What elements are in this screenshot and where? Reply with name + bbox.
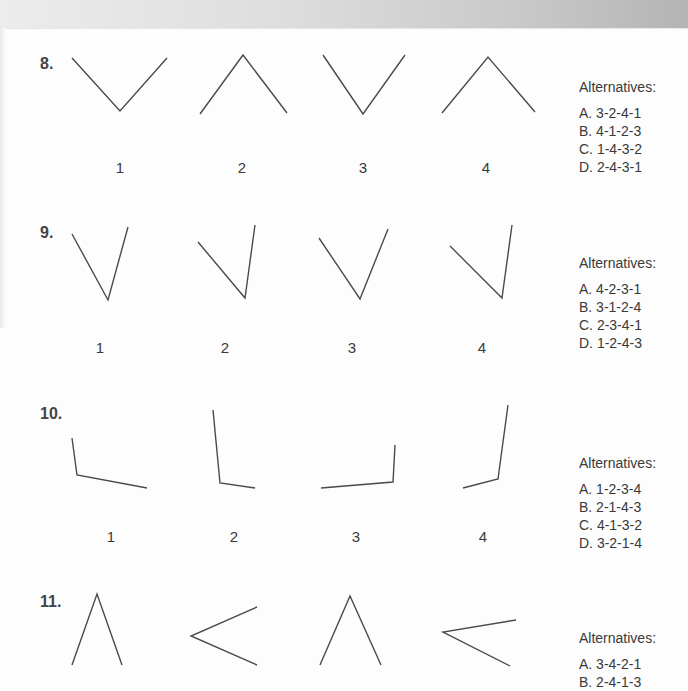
- q11-figure-2: [191, 607, 257, 665]
- question-number: 9.: [40, 224, 53, 242]
- alternatives-block: Alternatives: A. 3-2-4-1 B. 4-1-2-3 C. 1…: [579, 78, 656, 176]
- figure-label: 4: [472, 339, 492, 356]
- alternatives-title: Alternatives:: [579, 254, 656, 272]
- alternative-option: C. 4-1-3-2: [579, 516, 656, 534]
- q9-figure-1: [72, 227, 128, 300]
- question-number: 10.: [40, 405, 62, 423]
- figure-label: 3: [346, 528, 366, 545]
- figure-label: 2: [224, 528, 244, 545]
- alternatives-title: Alternatives:: [579, 78, 656, 96]
- alternative-option: A. 3-4-2-1: [579, 655, 656, 673]
- alternative-option: B. 4-1-2-3: [579, 122, 656, 140]
- figure-label: 1: [90, 339, 110, 356]
- figure-label: 4: [473, 528, 493, 545]
- alternative-option: A. 1-2-3-4: [579, 480, 656, 498]
- q9-figure-3: [319, 229, 388, 299]
- question-number: 8.: [40, 55, 53, 73]
- q8-figure-3: [323, 55, 405, 114]
- alternative-option: D. 2-4-3-1: [579, 158, 656, 176]
- figure-label: 1: [101, 528, 121, 545]
- question-number: 11.: [40, 593, 61, 611]
- alternative-option: B. 2-1-4-3: [579, 498, 656, 516]
- q10-figure-1: [72, 438, 147, 488]
- alternative-option: D. 1-2-4-3: [579, 334, 656, 352]
- alternatives-block: Alternatives: A. 1-2-3-4 B. 2-1-4-3 C. 4…: [579, 454, 656, 552]
- alternative-option: B. 2-4-1-3: [579, 673, 656, 691]
- q8-figure-1: [72, 58, 167, 111]
- figure-label: 2: [215, 339, 235, 356]
- alternative-option: B. 3-1-2-4: [579, 298, 656, 316]
- q11-figure-4: [443, 620, 516, 666]
- alternatives-block: Alternatives: A. 4-2-3-1 B. 3-1-2-4 C. 2…: [579, 254, 656, 352]
- alternatives-title: Alternatives:: [579, 454, 656, 472]
- q10-figure-4: [463, 405, 508, 488]
- figure-label: 1: [110, 159, 130, 176]
- q8-figure-2: [200, 55, 287, 114]
- q10-figure-3: [321, 445, 395, 488]
- alternative-option: D. 3-2-1-4: [579, 534, 656, 552]
- alternatives-title: Alternatives:: [579, 629, 656, 647]
- q9-figure-4: [450, 225, 512, 298]
- q8-figure-4: [442, 57, 535, 113]
- figure-label: 4: [476, 159, 496, 176]
- alternative-option: A. 4-2-3-1: [579, 280, 656, 298]
- figure-label: 2: [232, 159, 252, 176]
- alternative-option: C. 2-3-4-1: [579, 316, 656, 334]
- q10-figure-2: [213, 410, 255, 488]
- alternatives-block: Alternatives: A. 3-4-2-1 B. 2-4-1-3: [579, 629, 656, 691]
- q11-figure-1: [72, 594, 122, 665]
- figure-label: 3: [353, 159, 373, 176]
- q11-figure-3: [320, 596, 381, 665]
- figure-label: 3: [342, 339, 362, 356]
- q9-figure-2: [198, 225, 255, 298]
- alternative-option: A. 3-2-4-1: [579, 104, 656, 122]
- alternative-option: C. 1-4-3-2: [579, 140, 656, 158]
